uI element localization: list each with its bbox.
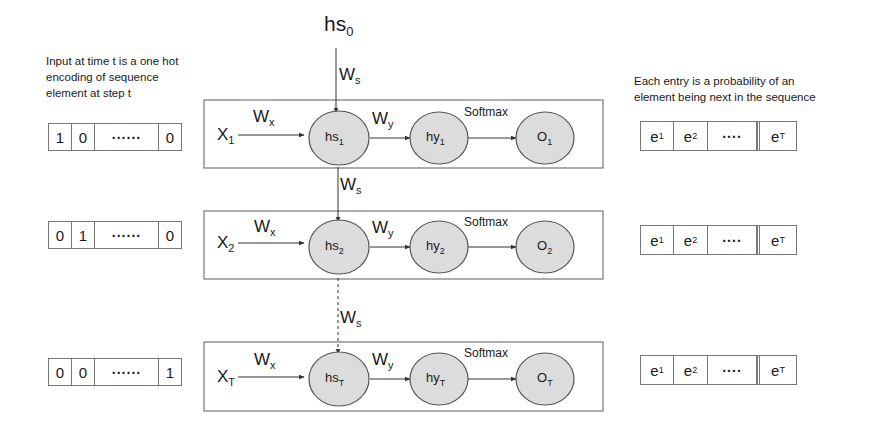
input-vector-1: 1 0 ...... 0 xyxy=(48,123,182,151)
output-cell: eT xyxy=(757,122,796,150)
output-cell: eT xyxy=(757,356,796,384)
initial-state-label: hs0 xyxy=(324,12,353,39)
wy-label-T: Wy xyxy=(372,350,394,371)
hs-label-1: hs1 xyxy=(325,129,344,147)
output-vector-1: e1 e2 .... eT xyxy=(640,121,797,151)
input-vector-3: 0 0 ...... 1 xyxy=(48,358,182,386)
input-cell: 0 xyxy=(159,222,181,248)
hs-label-2: hs2 xyxy=(325,238,344,256)
wy-label-1: Wy xyxy=(372,109,394,130)
softmax-label-1: Softmax xyxy=(464,105,508,119)
wx-label-2: Wx xyxy=(254,217,276,238)
output-cell-ellipsis: .... xyxy=(708,226,757,254)
wy-label-2: Wy xyxy=(372,218,394,239)
hs-label-T: hsT xyxy=(325,370,344,388)
output-note: Each entry is a probability of an elemen… xyxy=(634,73,816,105)
output-cell: e1 xyxy=(641,356,674,384)
o-label-2: O2 xyxy=(537,238,552,256)
softmax-label-2: Softmax xyxy=(464,215,508,229)
x-label-T: XT xyxy=(217,367,235,388)
input-cell-ellipsis: ...... xyxy=(95,359,159,385)
output-cell-ellipsis: .... xyxy=(708,356,757,384)
output-cell: e1 xyxy=(641,122,674,150)
hy-label-1: hy1 xyxy=(426,129,445,147)
input-cell: 0 xyxy=(72,124,95,150)
output-cell: e2 xyxy=(674,226,708,254)
output-cell: e2 xyxy=(674,122,708,150)
input-cell: 1 xyxy=(49,124,72,150)
wx-label-T: Wx xyxy=(254,350,276,371)
input-note: Input at time t is a one hot encoding of… xyxy=(46,53,178,101)
input-cell: 1 xyxy=(72,222,95,248)
o-label-T: OT xyxy=(537,370,553,388)
hy-label-T: hyT xyxy=(426,370,445,388)
x-label-2: X2 xyxy=(217,233,234,254)
output-cell: eT xyxy=(757,226,796,254)
ws-label-3: Ws xyxy=(340,308,362,329)
wx-label-1: Wx xyxy=(253,107,275,128)
input-cell: 0 xyxy=(49,222,72,248)
input-cell: 0 xyxy=(159,124,181,150)
output-vector-3: e1 e2 .... eT xyxy=(640,355,797,385)
output-cell-ellipsis: .... xyxy=(708,122,757,150)
softmax-label-T: Softmax xyxy=(464,346,508,360)
x-label-1: X1 xyxy=(217,125,234,146)
output-vector-2: e1 e2 .... eT xyxy=(640,225,797,255)
o-label-1: O1 xyxy=(537,129,552,147)
input-cell-ellipsis: ...... xyxy=(95,222,159,248)
input-cell: 1 xyxy=(159,359,181,385)
hy-label-2: hy2 xyxy=(426,238,445,256)
input-cell: 0 xyxy=(49,359,72,385)
input-cell: 0 xyxy=(72,359,95,385)
ws-label-1: Ws xyxy=(339,65,361,86)
input-vector-2: 0 1 ...... 0 xyxy=(48,221,182,249)
input-cell-ellipsis: ...... xyxy=(95,124,159,150)
output-cell: e2 xyxy=(674,356,708,384)
output-cell: e1 xyxy=(641,226,674,254)
ws-label-2: Ws xyxy=(340,175,362,196)
